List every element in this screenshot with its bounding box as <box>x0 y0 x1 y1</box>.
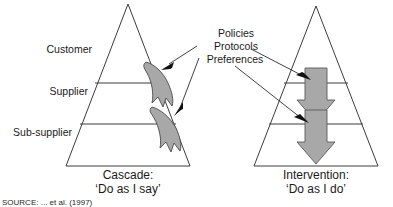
right-caption-quote: ‘Do as I do’ <box>254 182 378 197</box>
left-caption-title: Cascade: <box>66 168 190 183</box>
callout-label-preferences: Preferences <box>192 54 278 65</box>
tier-label-customer: Customer <box>0 44 92 55</box>
tier-label-supplier: Supplier <box>0 86 88 97</box>
right-caption-title: Intervention: <box>254 168 378 183</box>
leader-line-intervention-lower <box>235 66 301 118</box>
callout-label-policies: Policies <box>194 28 278 39</box>
callout-label-protocols: Protocols <box>194 41 278 52</box>
arrowhead-cascade-upper <box>161 62 174 70</box>
leader-to-cascade-lower <box>174 58 199 116</box>
left-caption-quote: ‘Do as I say’ <box>66 182 190 197</box>
source-note: SOURCE: ... et al. (1997) <box>2 199 92 207</box>
leader-line-cascade-lower <box>180 58 199 108</box>
tier-label-sub-supplier: Sub-supplier <box>0 127 72 138</box>
figure-canvas: Customer Supplier Sub-supplier Policies … <box>0 0 393 207</box>
